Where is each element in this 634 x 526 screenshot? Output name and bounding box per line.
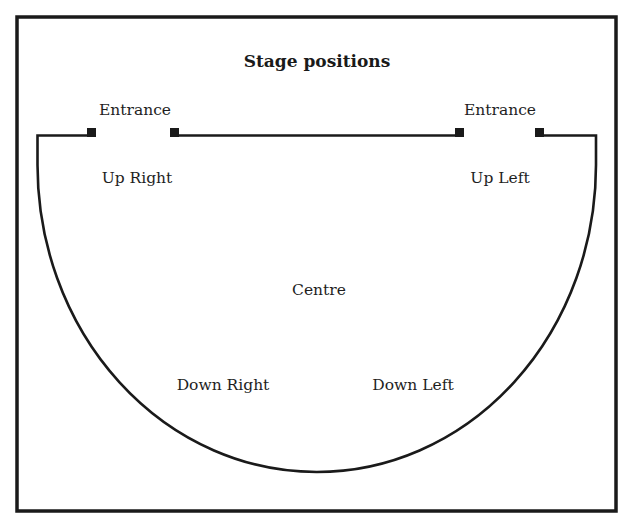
position-up-left: Up Left — [470, 169, 530, 187]
position-down-left: Down Left — [372, 376, 454, 394]
right-entrance-post-inner — [455, 128, 464, 137]
diagram-title: Stage positions — [244, 51, 391, 71]
position-down-right: Down Right — [177, 376, 270, 394]
right-entrance-label: Entrance — [464, 101, 536, 119]
left-entrance-label: Entrance — [99, 101, 171, 119]
outer-frame — [17, 17, 616, 511]
left-entrance-post-inner — [170, 128, 179, 137]
stage-positions-diagram: Stage positions Entrance Entrance Up Rig… — [0, 0, 634, 526]
position-up-right: Up Right — [102, 169, 173, 187]
back-wall-left-segment — [38, 136, 92, 166]
back-wall-right-segment — [539, 136, 596, 166]
position-centre: Centre — [292, 281, 346, 299]
right-entrance-post-outer — [535, 128, 544, 137]
left-entrance-post-outer — [87, 128, 96, 137]
stage-front-curve — [38, 165, 597, 472]
